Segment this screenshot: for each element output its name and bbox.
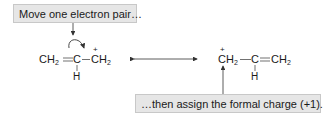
substituent-h: H bbox=[73, 71, 80, 82]
substituent-h: H bbox=[251, 71, 258, 82]
atom-ch2-left: CH2 bbox=[218, 53, 238, 65]
curved-electron-arrow-icon bbox=[69, 40, 84, 48]
atom-ch2-left: CH2 bbox=[39, 53, 59, 65]
callout-move-electron-pair: Move one electron pair… bbox=[13, 4, 137, 23]
formal-charge-plus: + bbox=[93, 46, 98, 54]
callout-assign-formal-charge: …then assign the formal charge (+1). bbox=[135, 94, 321, 113]
atom-ch2-right: CH2 bbox=[91, 53, 111, 65]
atom-ch2-right: CH2 bbox=[271, 53, 291, 65]
formal-charge-plus: + bbox=[220, 46, 225, 54]
atom-c-center: C bbox=[73, 53, 81, 65]
atom-c-center: C bbox=[251, 53, 259, 65]
